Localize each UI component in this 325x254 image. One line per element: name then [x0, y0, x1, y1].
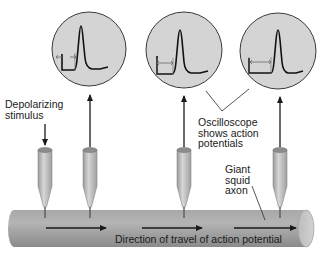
- oscilloscope-1: [52, 12, 126, 86]
- recording-electrode-1: [83, 147, 97, 218]
- direction-label: Direction of travel of action potential: [115, 233, 282, 245]
- recording-electrode-2: [177, 147, 191, 218]
- recording-electrode-3: [273, 147, 287, 218]
- axon-label: Giant squid axon: [225, 164, 250, 196]
- oscilloscope-3: [240, 13, 316, 89]
- oscilloscope-label: Oscilloscope shows action potentials: [198, 117, 259, 149]
- oscilloscope-callout-lines: [206, 89, 249, 111]
- oscilloscope-2: [146, 12, 222, 88]
- stimulating-electrode: [38, 147, 52, 218]
- diagram-canvas: [0, 0, 325, 254]
- stimulus-label: Depolarizing stimulus: [5, 99, 63, 120]
